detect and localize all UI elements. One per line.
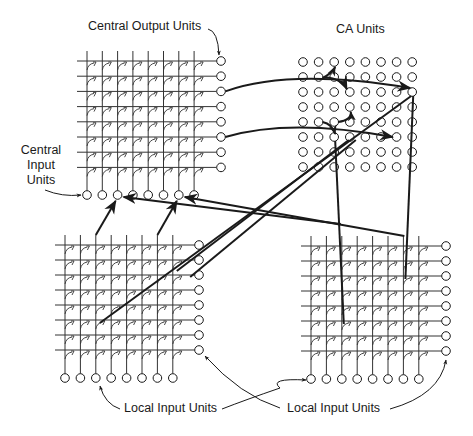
synapse-icon <box>157 351 166 359</box>
synapse-icon <box>403 337 412 345</box>
connection-ca-to-local-left <box>177 140 349 271</box>
synapse-icon <box>388 352 397 360</box>
synapse-icon <box>127 306 136 314</box>
pointer-local-right-output <box>390 360 446 409</box>
synapse-icon <box>342 262 351 270</box>
synapse-icon <box>403 262 412 270</box>
synapse-icon <box>419 337 428 345</box>
output-unit <box>195 331 204 340</box>
synapse-icon <box>80 276 89 284</box>
synapse-icon <box>357 322 366 330</box>
output-unit <box>195 301 204 310</box>
synapse-icon <box>179 123 188 131</box>
synapse-icon <box>148 123 157 131</box>
connection-local-left-to-central-input <box>157 201 176 235</box>
ca-unit <box>361 148 370 157</box>
label-central-output-units: Central Output Units <box>88 20 201 33</box>
synapse-icon <box>419 352 428 360</box>
input-unit <box>138 374 147 383</box>
synapse-icon <box>326 262 335 270</box>
synapse-icon <box>311 307 320 315</box>
synapse-icon <box>357 277 366 285</box>
synapse-icon <box>111 276 120 284</box>
synapse-icon <box>326 247 335 255</box>
synapse-icon <box>403 307 412 315</box>
synapse-icon <box>342 352 351 360</box>
ca-unit <box>377 148 386 157</box>
ca-unit <box>392 118 401 127</box>
output-unit <box>442 287 451 296</box>
synapse-icon <box>96 336 105 344</box>
synapse-icon <box>173 351 182 359</box>
synapse-icon <box>111 321 120 329</box>
synapse-icon <box>127 246 136 254</box>
output-unit <box>195 316 204 325</box>
synapse-icon <box>133 77 142 85</box>
ca-unit <box>361 118 370 127</box>
local-module-left-grid <box>55 235 203 382</box>
label-central-input-units: Central Input Units <box>16 143 66 188</box>
synapse-icon <box>373 292 382 300</box>
input-unit <box>144 191 153 200</box>
synapse-icon <box>80 291 89 299</box>
synapse-icon <box>164 62 173 70</box>
ca-unit <box>377 58 386 67</box>
synapse-icon <box>111 261 120 269</box>
ca-unit <box>346 103 355 112</box>
ca-unit <box>299 163 308 172</box>
synapse-icon <box>311 322 320 330</box>
ca-unit <box>408 88 417 97</box>
synapse-icon <box>87 168 96 176</box>
synapse-icon <box>102 138 111 146</box>
ca-unit <box>361 73 370 82</box>
synapse-icon <box>388 292 397 300</box>
input-unit <box>153 374 162 383</box>
synapse-icon <box>142 336 151 344</box>
synapse-icon <box>111 246 120 254</box>
input-unit <box>122 374 131 383</box>
synapse-icon <box>65 351 74 359</box>
ca-unit <box>314 133 323 142</box>
synapse-icon <box>419 292 428 300</box>
synapse-icon <box>173 276 182 284</box>
synapse-icon <box>403 352 412 360</box>
output-unit <box>217 87 226 96</box>
output-unit <box>195 346 204 355</box>
synapse-icon <box>179 108 188 116</box>
ca-unit <box>346 163 355 172</box>
synapse-icon <box>133 123 142 131</box>
connection-local-right-to-central-input <box>185 197 405 236</box>
synapse-icon <box>326 337 335 345</box>
synapse-icon <box>80 246 89 254</box>
output-unit <box>217 102 226 111</box>
ca-unit <box>408 73 417 82</box>
ca-unit <box>361 103 370 112</box>
ca-unit <box>299 58 308 67</box>
synapse-icon <box>157 291 166 299</box>
synapse-icon <box>148 77 157 85</box>
input-unit <box>76 374 85 383</box>
input-unit <box>368 375 377 384</box>
synapse-icon <box>118 138 127 146</box>
synapse-icon <box>133 92 142 100</box>
synapse-icon <box>194 168 203 176</box>
synapse-icon <box>311 262 320 270</box>
output-unit <box>217 118 226 127</box>
synapse-icon <box>326 277 335 285</box>
synapse-icon <box>80 321 89 329</box>
pointer-central-input-label <box>45 190 81 195</box>
ca-unit <box>346 148 355 157</box>
ca-unit <box>314 148 323 157</box>
label-central-input-line3: Units <box>16 173 66 188</box>
ca-unit <box>330 88 339 97</box>
synapse-icon <box>373 352 382 360</box>
label-local-input-units-left: Local Input Units <box>124 402 217 415</box>
synapse-icon <box>148 62 157 70</box>
synapse-icon <box>65 306 74 314</box>
ca-unit <box>330 58 339 67</box>
synapse-icon <box>65 321 74 329</box>
output-unit <box>217 163 226 172</box>
synapse-icon <box>388 262 397 270</box>
pointer-central-output-label <box>208 29 219 55</box>
synapse-icon <box>179 153 188 161</box>
